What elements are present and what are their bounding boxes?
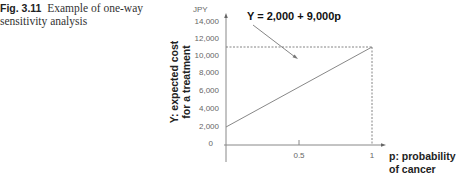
- x-axis-arrow-icon: [381, 143, 386, 147]
- y-unit-label: JPY: [193, 5, 208, 14]
- y-tick-label: 12,000: [195, 34, 220, 43]
- y-tick-label: 2,000: [199, 122, 220, 131]
- x-axis-label-line-2: of cancer: [389, 163, 436, 175]
- y-axis-label: Y: expected cost for a treatment: [168, 40, 192, 123]
- data-line: [226, 47, 372, 127]
- y-axis-label-line-2: for a treatment: [180, 45, 192, 119]
- y-tick-label: 4,000: [199, 104, 220, 113]
- x-tick-label: 1: [370, 151, 375, 160]
- x-tick-label: 0.5: [293, 151, 305, 160]
- annotation-arrow: [253, 25, 295, 57]
- y-axis-arrow-icon: [224, 13, 228, 18]
- equation-annotation: Y = 2,000 + 9,000p: [247, 10, 341, 22]
- y-axis-label-line-1: Y: expected cost: [168, 40, 180, 123]
- y-tick-label: 6,000: [199, 86, 220, 95]
- sensitivity-chart: 0.5 1 JPY 14,000 12,000 10,000 8,000 6,0…: [0, 0, 475, 187]
- x-axis-label-line-1: p: probability: [389, 150, 456, 162]
- y-tick-label: 8,000: [199, 68, 220, 77]
- y-tick-label: 0: [209, 139, 214, 148]
- annotation-arrow-head-icon: [293, 54, 299, 59]
- y-tick-label: 14,000: [195, 17, 220, 26]
- y-tick-label: 10,000: [195, 51, 220, 60]
